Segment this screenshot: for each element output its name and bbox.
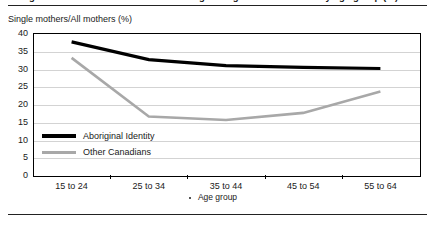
series-line-aboriginal-identity [72, 42, 381, 69]
chart-figure: Single mothers are more common among Abo… [0, 0, 435, 226]
bottom-horizontal-rule [8, 214, 427, 215]
legend-swatch-other-canadians [42, 151, 76, 154]
chart-legend: Aboriginal Identity Other Canadians [42, 128, 155, 160]
legend-swatch-aboriginal-identity [42, 134, 76, 138]
legend-label-aboriginal-identity: Aboriginal Identity [83, 131, 155, 141]
legend-item-other-canadians: Other Canadians [42, 144, 155, 160]
x-axis-title: Age group [0, 192, 435, 202]
legend-item-aboriginal-identity: Aboriginal Identity [42, 128, 155, 144]
legend-label-other-canadians: Other Canadians [83, 147, 151, 157]
